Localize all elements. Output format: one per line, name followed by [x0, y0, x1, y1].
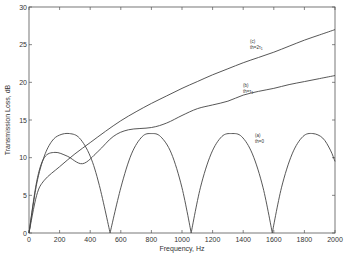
x-axis-ticks: 0200400600800100012001400160018002000	[27, 7, 343, 243]
y-tick-label: 30	[19, 4, 27, 11]
x-tick-label: 800	[146, 236, 158, 243]
x-axis-title: Frequency, Hz	[160, 245, 205, 253]
y-tick-label: 25	[19, 41, 27, 48]
svg-text:(a): (a)	[255, 133, 261, 138]
x-tick-label: 1800	[297, 236, 313, 243]
x-tick-label: 1600	[266, 236, 282, 243]
annotation-b: (b) th=τ1	[243, 83, 253, 95]
y-tick-label: 20	[19, 79, 27, 86]
x-tick-label: 1000	[174, 236, 190, 243]
series-line-a	[29, 133, 335, 233]
annotation-c: (c) th=2τ1	[250, 39, 263, 51]
x-tick-label: 1200	[205, 236, 221, 243]
svg-text:(c): (c)	[250, 39, 256, 44]
annotation-a: (a) th=0	[255, 133, 264, 144]
series-lines	[29, 30, 335, 233]
svg-text:th=2τ1: th=2τ1	[250, 45, 263, 52]
y-axis-ticks: 051015202530	[19, 4, 335, 237]
x-tick-label: 2000	[327, 236, 343, 243]
svg-text:th=0: th=0	[255, 139, 264, 144]
y-axis-title: Transmission Loss, dB	[4, 84, 11, 155]
y-tick-label: 0	[23, 230, 27, 237]
y-tick-label: 10	[19, 154, 27, 161]
series-line-c	[29, 30, 335, 233]
x-tick-label: 0	[27, 236, 31, 243]
y-tick-label: 5	[23, 192, 27, 199]
plot-frame	[29, 7, 335, 233]
transmission-loss-chart: 0200400600800100012001400160018002000 05…	[0, 0, 348, 255]
x-tick-label: 400	[84, 236, 96, 243]
y-tick-label: 15	[19, 117, 27, 124]
x-tick-label: 600	[115, 236, 127, 243]
x-tick-label: 200	[54, 236, 66, 243]
svg-text:(b): (b)	[243, 83, 249, 88]
x-tick-label: 1400	[235, 236, 251, 243]
